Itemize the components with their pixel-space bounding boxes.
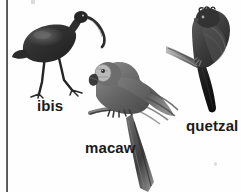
cropped-text-fragment-icon bbox=[31, 0, 35, 4]
bird-label-ibis: ibis bbox=[37, 98, 63, 113]
bird-label-macaw: macaw bbox=[85, 140, 136, 155]
bird-figure: ibis macaw quetzal bbox=[0, 0, 241, 192]
background-speck-icon bbox=[214, 162, 217, 166]
bird-label-quetzal: quetzal bbox=[186, 118, 238, 133]
bird-photo-quetzal bbox=[166, 6, 236, 116]
left-vertical-rule bbox=[6, 0, 8, 192]
